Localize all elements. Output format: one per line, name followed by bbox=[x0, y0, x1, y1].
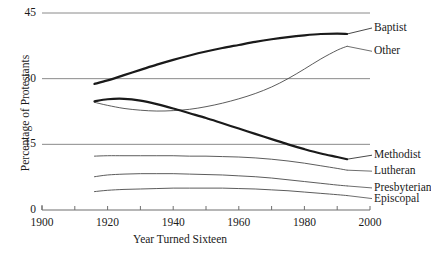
leader-line bbox=[347, 170, 372, 171]
leader-line bbox=[347, 28, 372, 34]
x-tick-label: 1980 bbox=[282, 217, 326, 229]
series-line-methodist bbox=[94, 99, 347, 160]
x-tick-label: 2000 bbox=[348, 217, 392, 229]
y-tick-label: 45 bbox=[10, 7, 36, 19]
x-tick-label: 1920 bbox=[86, 217, 130, 229]
leader-line bbox=[347, 196, 372, 199]
x-tick-label: 1940 bbox=[151, 217, 195, 229]
leader-line bbox=[347, 46, 372, 51]
series-label-lutheran: Lutheran bbox=[374, 165, 416, 177]
series-label-other: Other bbox=[374, 45, 400, 57]
x-tick-label: 1900 bbox=[20, 217, 64, 229]
series-line-presbyterian bbox=[94, 174, 347, 186]
leader-line bbox=[347, 186, 372, 188]
y-axis-title-wrapper: Percentage of Protestants bbox=[15, 43, 33, 183]
series-label-baptist: Baptist bbox=[374, 22, 407, 34]
series-label-episcopal: Episcopal bbox=[374, 193, 419, 205]
x-axis-title: Year Turned Sixteen bbox=[133, 234, 227, 246]
y-tick-label: 0 bbox=[10, 204, 36, 216]
series-line-episcopal bbox=[94, 188, 347, 195]
y-tick-label: 15 bbox=[10, 138, 36, 150]
leader-line bbox=[347, 155, 372, 159]
axis-ticks bbox=[42, 206, 370, 210]
data-series-lines bbox=[94, 34, 347, 196]
x-tick-label: 1960 bbox=[217, 217, 261, 229]
y-tick-label: 30 bbox=[10, 73, 36, 85]
series-line-lutheran bbox=[94, 156, 347, 170]
series-label-methodist: Methodist bbox=[374, 149, 421, 161]
label-leader-lines bbox=[347, 28, 372, 199]
gridlines bbox=[42, 13, 370, 144]
series-line-baptist bbox=[94, 34, 347, 84]
